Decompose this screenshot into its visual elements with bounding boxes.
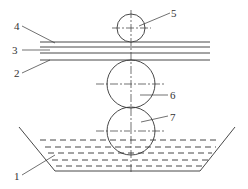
label-5: 5	[171, 8, 177, 19]
diagram: 1 2 3 4 5 6 7	[0, 0, 248, 189]
strips	[40, 42, 210, 60]
label-6: 6	[170, 90, 176, 101]
label-2: 2	[14, 68, 20, 79]
liquid-surface	[40, 140, 220, 166]
label-7: 7	[170, 112, 176, 123]
label-3: 3	[12, 45, 18, 56]
diagram-drawing	[0, 0, 248, 189]
label-1: 1	[14, 171, 20, 182]
tank	[19, 127, 235, 171]
label-4: 4	[14, 21, 20, 32]
